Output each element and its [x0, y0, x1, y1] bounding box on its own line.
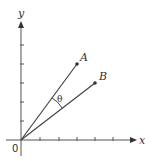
vector-b [21, 83, 95, 140]
vector-a-label: A [79, 51, 88, 64]
point-b [93, 81, 97, 85]
x-axis-label: x [139, 134, 146, 147]
y-axis-label: y [17, 7, 25, 20]
vector-angle-diagram: y x 0 A B θ [0, 0, 153, 161]
point-a [75, 62, 79, 66]
vector-b-label: B [98, 70, 107, 83]
theta-label: θ [57, 94, 62, 104]
vector-a [21, 64, 77, 140]
origin-label: 0 [12, 143, 18, 154]
x-axis-arrow-icon [130, 137, 137, 143]
y-axis-arrow-icon [18, 21, 24, 28]
